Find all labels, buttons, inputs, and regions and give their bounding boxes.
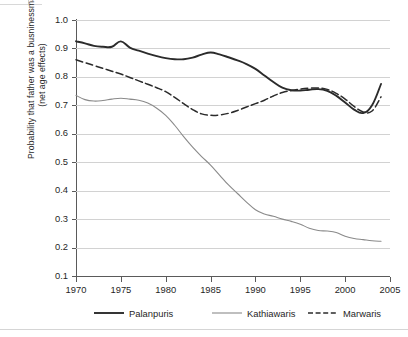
legend-item-marwaris[interactable]: Marwaris	[308, 305, 381, 321]
legend-swatch-palanpuris-icon	[94, 308, 124, 318]
series-line-marwaris	[76, 60, 381, 116]
x-tick-mark	[211, 277, 212, 282]
x-tick-label: 1990	[235, 284, 275, 295]
y-tick-label: 0.3	[38, 214, 68, 224]
x-tick-label: 1980	[146, 284, 186, 295]
y-tick-label: 0.2	[38, 242, 68, 252]
chart-legend: PalanpurisKathiawarisMarwaris	[76, 305, 390, 321]
x-tick-label: 1995	[280, 284, 320, 295]
x-tick-mark	[345, 277, 346, 282]
series-lines	[76, 20, 390, 276]
y-tick-label: 0.6	[38, 128, 68, 138]
y-tick-label: 0.5	[38, 157, 68, 167]
x-tick-mark	[121, 277, 122, 282]
x-tick-label: 1975	[101, 284, 141, 295]
x-tick-label: 1970	[56, 284, 96, 295]
legend-label: Palanpuris	[129, 308, 173, 319]
y-tick-label: 0.1	[38, 271, 68, 281]
x-tick-mark	[166, 277, 167, 282]
series-line-palanpuris	[76, 41, 381, 113]
legend-label: Kathiawaris	[247, 308, 295, 319]
legend-swatch-kathiawaris-icon	[212, 308, 242, 318]
x-tick-mark	[76, 277, 77, 282]
chart-figure: Probability that father was a busninessm…	[0, 0, 408, 337]
scan-artifact-footer-rule	[0, 329, 408, 330]
legend-item-kathiawaris[interactable]: Kathiawaris	[212, 305, 295, 321]
y-tick-label: 0.7	[38, 100, 68, 110]
x-tick-label: 2005	[370, 284, 408, 295]
gridline-y	[76, 276, 390, 277]
x-tick-label: 1985	[191, 284, 231, 295]
x-tick-mark	[255, 277, 256, 282]
legend-item-palanpuris[interactable]: Palanpuris	[94, 305, 173, 321]
x-tick-mark	[390, 277, 391, 282]
x-tick-mark	[300, 277, 301, 282]
legend-label: Marwaris	[343, 308, 381, 319]
y-tick-label: 0.9	[38, 43, 68, 53]
y-tick-label: 1.0	[38, 15, 68, 25]
plot-area	[76, 20, 390, 276]
legend-swatch-marwaris-icon	[308, 308, 338, 318]
y-tick-label: 0.8	[38, 71, 68, 81]
x-tick-label: 2000	[325, 284, 365, 295]
y-axis-title-line1: Probability that father was a busninessm…	[26, 0, 36, 159]
series-line-kathiawaris	[76, 95, 381, 241]
y-tick-label: 0.4	[38, 185, 68, 195]
